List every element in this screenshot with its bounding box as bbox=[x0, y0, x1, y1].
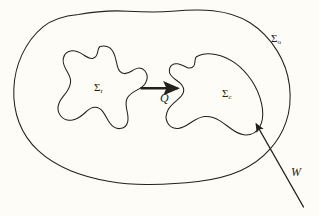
figure-canvas: Σo Σr Σc Q W bbox=[0, 0, 319, 216]
label-sigma-c-subscript: c bbox=[228, 93, 231, 101]
label-sigma-c: Σc bbox=[222, 84, 232, 100]
label-sigma-o-subscript: o bbox=[277, 38, 281, 46]
outer-boundary-curve bbox=[14, 10, 290, 184]
right-inner-blob-curve bbox=[166, 54, 263, 135]
label-sigma-r-subscript: r bbox=[100, 87, 102, 95]
label-w: W bbox=[291, 166, 301, 178]
label-sigma-r: Σr bbox=[94, 78, 103, 94]
label-sigma-o: Σo bbox=[271, 29, 281, 45]
label-q: Q bbox=[160, 92, 169, 104]
